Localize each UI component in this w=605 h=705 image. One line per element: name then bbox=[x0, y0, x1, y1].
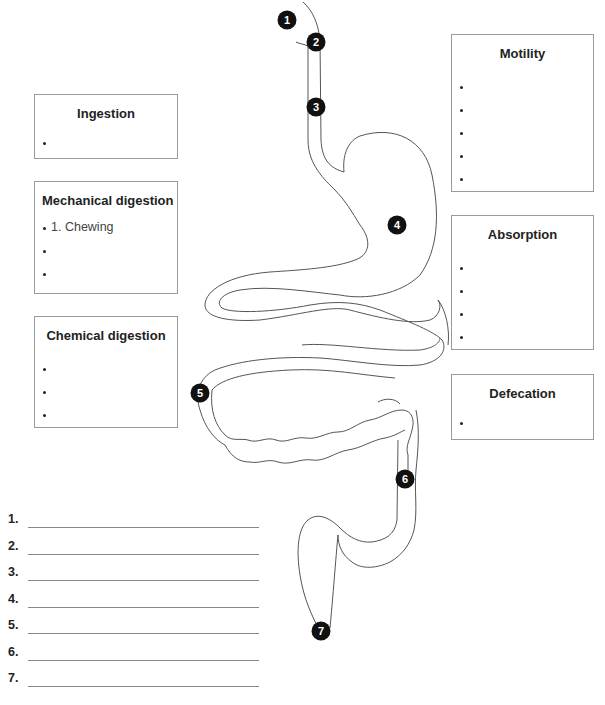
marker-5: 5 bbox=[191, 384, 210, 403]
answer-number: 7. bbox=[8, 671, 18, 685]
absorption-item[interactable] bbox=[452, 302, 593, 325]
answer-number: 6. bbox=[8, 645, 18, 659]
defecation-item[interactable] bbox=[452, 411, 593, 434]
answer-number: 5. bbox=[8, 618, 18, 632]
marker-6: 6 bbox=[396, 470, 415, 489]
mechanical-item[interactable]: 1. Chewing bbox=[35, 216, 177, 239]
chemical-item[interactable] bbox=[35, 403, 177, 426]
mechanical-digestion-title: Mechanical digestion bbox=[35, 193, 177, 208]
answer-row-6: 6. bbox=[8, 645, 268, 672]
answer-number: 3. bbox=[8, 565, 18, 579]
ingestion-box: Ingestion bbox=[34, 94, 178, 159]
chemical-digestion-title: Chemical digestion bbox=[35, 328, 177, 343]
answer-row-4: 4. bbox=[8, 592, 268, 619]
answer-field-7[interactable] bbox=[28, 686, 259, 687]
answer-number: 1. bbox=[8, 512, 18, 526]
absorption-item[interactable] bbox=[452, 279, 593, 302]
svg-text:4: 4 bbox=[394, 219, 401, 231]
answer-blanks: 1. 2. 3. 4. 5. 6. 7. bbox=[8, 512, 268, 698]
answer-field-1[interactable] bbox=[28, 527, 259, 528]
defecation-box: Defecation bbox=[451, 374, 594, 440]
absorption-item[interactable] bbox=[452, 325, 593, 348]
svg-text:7: 7 bbox=[318, 625, 324, 637]
mechanical-item[interactable] bbox=[35, 239, 177, 262]
marker-2: 2 bbox=[307, 33, 326, 52]
motility-title: Motility bbox=[452, 46, 593, 61]
chemical-item[interactable] bbox=[35, 357, 177, 380]
answer-field-2[interactable] bbox=[28, 554, 259, 555]
svg-text:1: 1 bbox=[284, 14, 290, 26]
answer-row-7: 7. bbox=[8, 671, 268, 698]
marker-3: 3 bbox=[307, 98, 326, 117]
mechanical-item[interactable] bbox=[35, 262, 177, 285]
svg-text:3: 3 bbox=[313, 101, 319, 113]
answer-field-4[interactable] bbox=[28, 607, 259, 608]
chemical-item[interactable] bbox=[35, 380, 177, 403]
motility-item[interactable] bbox=[452, 121, 593, 144]
answer-row-3: 3. bbox=[8, 565, 268, 592]
defecation-title: Defecation bbox=[452, 386, 593, 401]
motility-item[interactable] bbox=[452, 144, 593, 167]
ingestion-title: Ingestion bbox=[35, 106, 177, 121]
absorption-title: Absorption bbox=[452, 227, 593, 242]
absorption-box: Absorption bbox=[451, 215, 594, 350]
answer-field-5[interactable] bbox=[28, 633, 259, 634]
ingestion-item[interactable] bbox=[35, 131, 177, 154]
marker-4: 4 bbox=[388, 216, 407, 235]
motility-box: Motility bbox=[451, 34, 594, 192]
chemical-digestion-box: Chemical digestion bbox=[34, 316, 178, 428]
svg-text:5: 5 bbox=[197, 387, 203, 399]
answer-row-5: 5. bbox=[8, 618, 268, 645]
absorption-item[interactable] bbox=[452, 256, 593, 279]
marker-1: 1 bbox=[278, 11, 297, 30]
svg-text:6: 6 bbox=[402, 473, 408, 485]
answer-number: 2. bbox=[8, 539, 18, 553]
answer-row-2: 2. bbox=[8, 539, 268, 566]
mechanical-digestion-box: Mechanical digestion 1. Chewing bbox=[34, 181, 178, 294]
svg-text:2: 2 bbox=[313, 36, 319, 48]
motility-item[interactable] bbox=[452, 98, 593, 121]
answer-field-6[interactable] bbox=[28, 660, 259, 661]
motility-item[interactable] bbox=[452, 75, 593, 98]
marker-7: 7 bbox=[312, 622, 331, 641]
answer-field-3[interactable] bbox=[28, 580, 259, 581]
answer-number: 4. bbox=[8, 592, 18, 606]
motility-item[interactable] bbox=[452, 167, 593, 190]
answer-row-1: 1. bbox=[8, 512, 268, 539]
